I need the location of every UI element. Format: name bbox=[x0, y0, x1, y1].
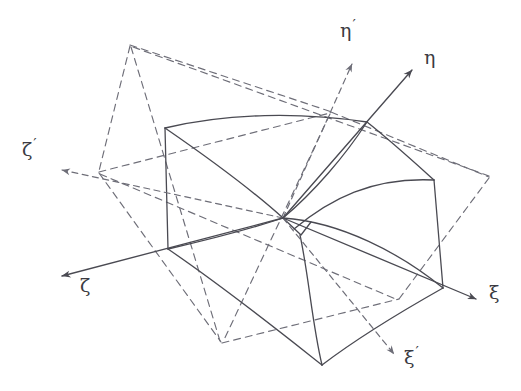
axis-label-eta-prime-glyph: η bbox=[340, 19, 351, 41]
cell-top-back-edge bbox=[165, 115, 367, 128]
prime-mark-eta: ′ bbox=[352, 16, 355, 34]
dashed-edge-left-bottom bbox=[99, 173, 221, 342]
axis-label-eta: η bbox=[424, 48, 435, 67]
axis-label-zeta-prime: ζ′ bbox=[22, 137, 37, 159]
dashed-axes bbox=[62, 64, 394, 354]
dashed-edge-lowerright-right bbox=[399, 178, 489, 299]
dashed-edge-topleft-bottom bbox=[131, 47, 220, 341]
axis-label-xi-prime-glyph: ξ bbox=[404, 346, 414, 368]
cell-inner-curve-vert bbox=[300, 235, 322, 365]
dashed-edge-topright-right bbox=[331, 112, 489, 177]
axis-label-eta-prime: η′ bbox=[340, 18, 356, 40]
cell-bottom-front-curve bbox=[322, 288, 443, 365]
coordinate-diagram bbox=[0, 0, 521, 391]
axis-xi-prime-line bbox=[283, 218, 394, 354]
axis-label-xi: ξ bbox=[489, 283, 499, 302]
cell-top-left-diagonal bbox=[165, 128, 283, 218]
axis-eta-prime-line bbox=[283, 64, 352, 218]
axis-zeta-prime-line bbox=[62, 170, 283, 218]
cell-bottom-front-left bbox=[168, 249, 322, 365]
solid-curvilinear-cell bbox=[165, 115, 443, 365]
axis-zeta-line bbox=[62, 218, 283, 276]
axis-label-xi-prime: ξ′ bbox=[404, 345, 419, 367]
dashed-edge-topleft-topright bbox=[130, 45, 332, 112]
cell-top-right-edge bbox=[367, 122, 434, 180]
prime-mark-zeta: ′ bbox=[33, 135, 36, 153]
axis-label-zeta-prime-glyph: ζ bbox=[22, 138, 32, 160]
figure-canvas: η′ η ζ′ ζ ξ ξ′ bbox=[0, 0, 521, 391]
dashed-edge-topleft-left bbox=[99, 46, 130, 171]
axis-label-zeta: ζ bbox=[80, 276, 90, 295]
dashed-edge-bottom-lowerright bbox=[222, 299, 399, 343]
axis-xi-line bbox=[283, 218, 476, 299]
prime-mark-xi: ′ bbox=[415, 343, 418, 361]
cell-left-vertical bbox=[165, 128, 168, 249]
cell-right-vertical bbox=[434, 180, 443, 288]
